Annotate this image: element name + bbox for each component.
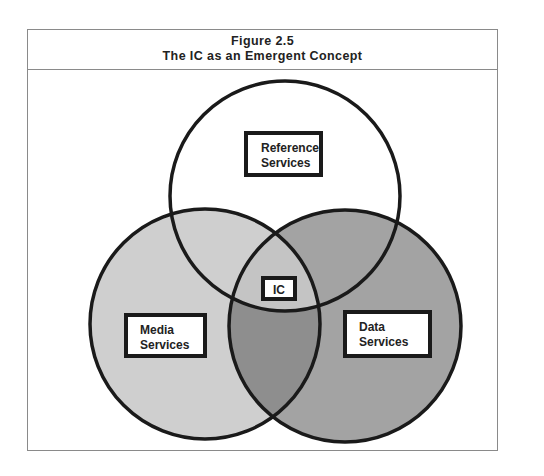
media-services-label: Media Services: [124, 313, 207, 358]
ic-label: IC: [261, 276, 297, 301]
data-services-label: Data Services: [343, 310, 432, 358]
label-line: Media: [140, 323, 203, 338]
label-line: Services: [140, 338, 203, 353]
venn-diagram: [0, 0, 544, 476]
label-line: Services: [359, 335, 428, 350]
label-line: Data: [359, 320, 428, 335]
reference-services-label: Reference Services: [244, 131, 323, 177]
label-text: IC: [273, 283, 285, 297]
label-line: Reference: [261, 141, 319, 156]
label-line: Services: [261, 156, 319, 171]
